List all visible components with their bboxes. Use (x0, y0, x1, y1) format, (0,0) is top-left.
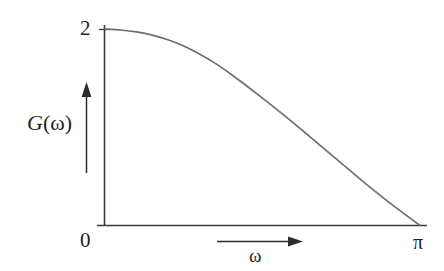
y-axis-title-omega: ω (50, 110, 64, 135)
data-curve (105, 29, 420, 226)
origin-label: 0 (80, 230, 91, 251)
chart-figure: 2 0 π G(ω) ω (0, 0, 444, 271)
x-axis-max-label: π (413, 232, 423, 252)
x-axis-title: ω (249, 246, 262, 265)
y-axis-title: G(ω) (27, 112, 72, 134)
y-axis-title-g: G (27, 110, 43, 135)
y-axis-max-label: 2 (80, 18, 91, 39)
plot-canvas (0, 0, 444, 271)
y-axis-title-close-paren: ) (65, 110, 72, 135)
y-axis-direction-arrow (82, 82, 92, 173)
